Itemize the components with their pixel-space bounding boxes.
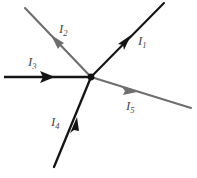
current-label-I4: I4: [51, 115, 60, 128]
branch-I1: [91, 3, 164, 77]
diagram-canvas: [0, 0, 197, 178]
junction-node: [88, 74, 95, 81]
branch-I5: [91, 77, 191, 108]
current-label-I5-subscript: 5: [130, 105, 134, 115]
current-label-I1-subscript: 1: [142, 40, 146, 50]
branch-line-I5: [91, 77, 191, 108]
current-label-I1: I1: [138, 34, 147, 47]
current-label-I2: I2: [59, 22, 68, 35]
current-label-I3: I3: [28, 55, 37, 68]
current-label-I2-subscript: 2: [63, 28, 67, 38]
branch-I3: [4, 71, 91, 83]
current-label-I5: I5: [126, 99, 135, 112]
current-label-I4-subscript: 4: [55, 121, 59, 131]
current-junction-diagram: I1 I2 I3 I4 I5: [0, 0, 197, 178]
current-label-I3-subscript: 3: [32, 61, 36, 71]
